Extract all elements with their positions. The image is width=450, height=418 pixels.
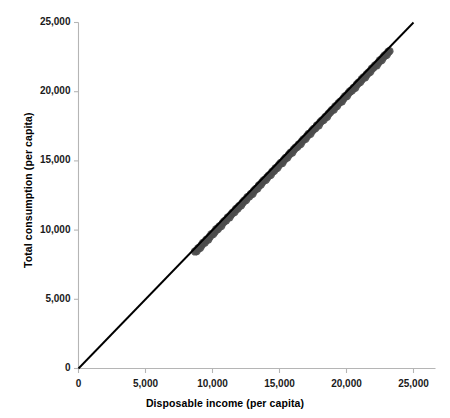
y-axis-label: Total consumption (per capita) bbox=[22, 112, 34, 268]
y-axis-tick-label: 10,000 bbox=[40, 224, 71, 235]
y-axis-tick-label: 5,000 bbox=[45, 293, 70, 304]
scatter-plot-canvas bbox=[0, 0, 450, 418]
y-axis-tick-label: 20,000 bbox=[40, 85, 71, 96]
reference-line-45-degree bbox=[79, 23, 414, 369]
y-axis-tick-label: 25,000 bbox=[40, 16, 71, 27]
x-axis-tick-label: 25,000 bbox=[374, 378, 450, 389]
y-axis-tick-label: 15,000 bbox=[40, 154, 71, 165]
y-axis-tick-label: 0 bbox=[65, 362, 71, 373]
chart-container: 05,00010,00015,00020,00025,000 05,00010,… bbox=[0, 0, 450, 418]
data-point-cloud bbox=[191, 47, 394, 256]
x-axis-label: Disposable income (per capita) bbox=[0, 397, 450, 409]
axis-lines bbox=[79, 23, 436, 369]
